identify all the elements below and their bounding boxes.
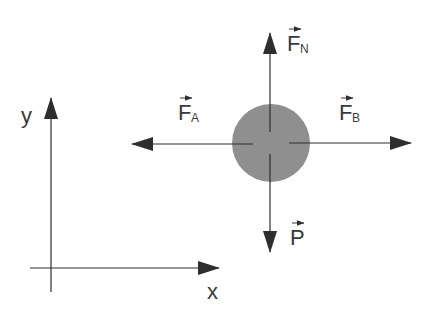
force-letter: F bbox=[339, 100, 352, 125]
force-letter: F bbox=[287, 31, 300, 56]
force-label-a: F A bbox=[178, 98, 199, 125]
coordinate-axes: y x bbox=[21, 98, 219, 304]
force-letter: P bbox=[290, 225, 305, 250]
y-axis-label: y bbox=[21, 103, 32, 128]
force-subscript: B bbox=[352, 111, 360, 125]
force-letter: F bbox=[178, 100, 191, 125]
free-body-diagram: y x F N F A F B P bbox=[0, 0, 429, 320]
force-subscript: N bbox=[300, 42, 309, 56]
force-label-normal: F N bbox=[287, 29, 309, 56]
force-subscript: A bbox=[191, 111, 199, 125]
force-label-weight: P bbox=[290, 223, 305, 250]
force-label-b: F B bbox=[339, 98, 360, 125]
x-axis-label: x bbox=[207, 279, 218, 304]
